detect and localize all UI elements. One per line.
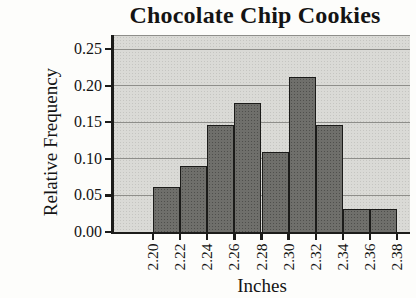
histogram-bar <box>207 125 234 233</box>
plot-top-border <box>113 35 410 36</box>
histogram-bar <box>370 209 397 232</box>
x-tick-label: 2.34 <box>335 237 351 277</box>
chart-title: Chocolate Chip Cookies <box>90 2 416 29</box>
x-axis-line <box>111 232 410 234</box>
x-axis-label: Inches <box>162 275 362 297</box>
x-tick-label: 2.38 <box>389 237 405 277</box>
x-tick-label: 2.24 <box>199 237 215 277</box>
histogram-bar <box>153 187 180 232</box>
y-tick-label: 0.20 <box>58 77 102 95</box>
histogram-bar <box>180 166 207 232</box>
x-tick-label: 2.30 <box>281 237 297 277</box>
gridline <box>113 122 410 123</box>
y-tick-label: 0.05 <box>58 186 102 204</box>
gridline <box>113 85 410 86</box>
y-axis-line <box>111 35 113 234</box>
x-tick-label: 2.28 <box>254 237 270 277</box>
histogram-bar <box>316 125 343 233</box>
histogram-bar <box>234 103 261 232</box>
gridline <box>113 49 410 50</box>
plot-area <box>113 36 410 232</box>
x-tick-label: 2.36 <box>362 237 378 277</box>
y-tick-label: 0.15 <box>58 113 102 131</box>
y-tick-label: 0.25 <box>58 40 102 58</box>
histogram-bar <box>289 77 316 232</box>
histogram-bar <box>343 209 370 232</box>
x-tick-label: 2.32 <box>308 237 324 277</box>
x-tick-label: 2.22 <box>172 237 188 277</box>
x-tick-label: 2.20 <box>145 237 161 277</box>
x-tick-label: 2.26 <box>226 237 242 277</box>
y-axis-label: Relative Frequency <box>40 32 62 252</box>
y-tick-label: 0.00 <box>58 223 102 241</box>
y-tick-label: 0.10 <box>58 150 102 168</box>
histogram-figure: Chocolate Chip Cookies Relative Frequenc… <box>0 0 416 298</box>
histogram-bar <box>262 152 289 232</box>
